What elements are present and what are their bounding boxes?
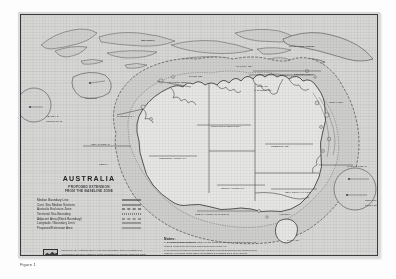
legend-label: Territorial Sea Boundary: [37, 212, 122, 216]
cocos-inset: [72, 72, 111, 98]
map-subtitle: PROPOSED EXTENSION FROM THE BASELINE ZON…: [37, 185, 141, 194]
map-label: TORRES STRAIT: [294, 73, 315, 76]
legend-swatch: [122, 212, 141, 216]
map-legend: Median Boundary LineCont. Sea Median Sec…: [37, 198, 141, 231]
legend-swatch: [122, 217, 141, 221]
map-label: PAPUA NEW GUINEA: [289, 45, 315, 48]
map-label: CHRISTMAS I.: [117, 115, 134, 118]
legend-label: Longitude / Boundary Limit: [37, 221, 122, 225]
map-label: PACIFIC OCEAN: [347, 165, 367, 168]
notes-lines: 1. Baseline as per 1958 Convention on th…: [164, 241, 290, 256]
legend-row: Proposed Extension Area: [37, 226, 141, 231]
heard-mcdonald-inset-label-2: McDONALD IS.: [46, 120, 63, 123]
christmas-island: [141, 105, 145, 109]
credit-text: Produced by the Australian Survey and La…: [61, 249, 168, 256]
map-label: PERTH: [99, 163, 108, 166]
legend-row: Adjacent Area (Block Boundary): [37, 216, 141, 221]
credit-line: Administrative Services, Canberra, for t…: [61, 253, 168, 256]
ashmore-reef: [159, 79, 163, 83]
map-label: GREAT AUSTRALIAN BIGHT: [195, 213, 229, 216]
map-label: NORTHERN TERRITORY: [211, 125, 241, 128]
map-subtitle-line-2: FROM THE BASELINE ZONE: [37, 189, 141, 194]
map-frame[interactable]: INDONESIAPAPUA NEW GUINEATIMOR SEAARAFUR…: [20, 14, 378, 256]
cocos-inset-label: COCOS IS.: [85, 97, 97, 100]
legend-swatch: [122, 198, 141, 202]
map-label: SOUTH AUSTRALIA: [221, 187, 245, 190]
credit-block: Produced by the Australian Survey and La…: [43, 249, 167, 256]
map-label: VICTORIA: [279, 213, 291, 216]
legend-label: Adjacent Area (Block Boundary): [37, 217, 122, 221]
legend-row: Australia Exclusive Zone: [37, 207, 141, 212]
map-label: INDIAN OCEAN: [91, 143, 110, 146]
legend-row: Median Boundary Line: [37, 198, 141, 203]
title-legend-block: AUSTRALIA PROPOSED EXTENSION FROM THE BA…: [37, 175, 141, 230]
agency-logo: [43, 249, 58, 256]
norfolk-inset-label-2: LORD HOWE I.: [365, 204, 378, 207]
map-label: INDONESIA: [141, 39, 155, 42]
heard-mcdonald-inset-label: HEARD I. &: [46, 115, 59, 118]
map-label: GULF OF: [257, 85, 268, 88]
legend-row: Longitude / Boundary Limit: [37, 221, 141, 226]
legend-label: Cont. Sea Median Sections: [37, 203, 122, 207]
map-label: CORAL SEA: [329, 101, 344, 104]
figure-caption: Figure 1: [20, 262, 36, 267]
map-label: TIMOR SEA: [189, 75, 203, 78]
norfolk-inset-label: NORFOLK I.: [365, 199, 378, 202]
map-page: INDONESIAPAPUA NEW GUINEATIMOR SEAARAFUR…: [0, 0, 396, 279]
map-label: ASHMORE REEF: [167, 81, 188, 84]
map-label: ARAFURA SEA: [235, 65, 253, 68]
legend-row: Territorial Sea Boundary: [37, 212, 141, 217]
legend-label: Median Boundary Line: [37, 198, 122, 202]
legend-swatch: [122, 203, 141, 207]
map-label: QUEENSLAND: [271, 145, 289, 148]
notes-block: Notes: 1. Baseline as per 1958 Conventio…: [164, 237, 290, 256]
map-title: AUSTRALIA: [37, 175, 141, 183]
legend-label: Australia Exclusive Zone: [37, 207, 122, 211]
map-label: NEW SOUTH WALES: [285, 191, 310, 194]
map-label: CARPENTARIA: [254, 89, 272, 92]
legend-row: Cont. Sea Median Sections: [37, 202, 141, 207]
legend-label: Proposed Extension Area: [37, 226, 122, 230]
legend-swatch: [122, 207, 141, 211]
note-line: baseline, excluding areas where delimita…: [164, 252, 290, 256]
legend-swatch: [122, 226, 141, 230]
legend-swatch: [122, 221, 141, 225]
map-label: WESTERN AUSTRALIA: [159, 157, 187, 160]
